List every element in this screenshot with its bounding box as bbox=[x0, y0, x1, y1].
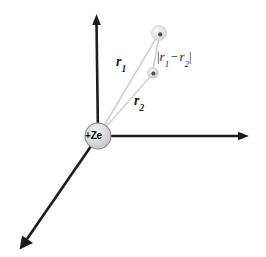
r1-vector-line bbox=[98, 35, 158, 136]
vector-lines bbox=[98, 35, 159, 136]
figure-canvas: +Ze r1 r2 |r1−r2| bbox=[0, 0, 266, 257]
electron-2-group bbox=[148, 68, 159, 79]
electron-1-core-dot bbox=[158, 32, 162, 36]
r2-label: r2 bbox=[134, 94, 144, 111]
separation-close-bar: | bbox=[189, 49, 192, 64]
r2-subscript: 2 bbox=[139, 103, 144, 113]
diagonal-axis-arrowhead-fill bbox=[20, 236, 34, 250]
nucleus-charge-label: +Ze bbox=[85, 131, 102, 141]
separation-subscript-1: 1 bbox=[165, 59, 169, 69]
separation-label: |r1−r2| bbox=[157, 50, 192, 66]
vertical-axis-line bbox=[97, 22, 99, 136]
diagonal-axis-line bbox=[27, 136, 98, 239]
electron-1-group bbox=[152, 26, 167, 41]
coordinate-axes bbox=[20, 14, 250, 250]
r1-subscript: 1 bbox=[121, 64, 126, 74]
separation-subscript-2: 2 bbox=[185, 59, 189, 69]
r1-label: r1 bbox=[116, 55, 126, 72]
separation-symbol-1: r bbox=[160, 49, 165, 64]
separation-minus-sign: − bbox=[169, 49, 179, 64]
vertical-axis-arrowhead bbox=[92, 14, 101, 25]
vector-diagram-svg bbox=[0, 0, 266, 257]
separation-symbol-2: r bbox=[179, 49, 184, 64]
electron-2-core-dot bbox=[151, 71, 155, 75]
horizontal-axis-arrowhead bbox=[238, 132, 249, 141]
